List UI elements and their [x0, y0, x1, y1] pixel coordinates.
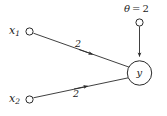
- input-label-x1: x1: [9, 25, 20, 38]
- output-label-y: y: [137, 68, 143, 78]
- edge-x1-arrowhead: [79, 50, 93, 55]
- weight-label-x1: 2: [75, 39, 81, 49]
- input-node-x2: [26, 96, 33, 103]
- threshold-value: 2: [142, 3, 148, 14]
- diagram-canvas: [0, 0, 167, 116]
- input-node-x1: [26, 28, 33, 35]
- perceptron-diagram: x1 x2 2 2 θ = 2 y: [0, 0, 167, 116]
- weight-label-x2: 2: [73, 89, 79, 99]
- threshold-equals: =: [130, 3, 142, 14]
- threshold-label: θ = 2: [124, 4, 149, 14]
- input-label-x1-subscript: 1: [15, 29, 20, 38]
- input-label-x2-subscript: 2: [15, 97, 20, 106]
- threshold-node: [136, 19, 143, 26]
- input-label-x2: x2: [9, 93, 20, 106]
